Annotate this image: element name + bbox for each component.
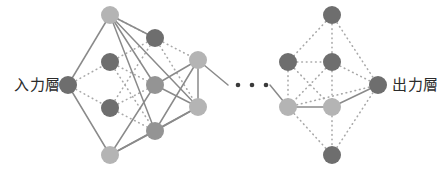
diagram-canvas: 入力層 出力層 bbox=[0, 0, 442, 172]
edge-dotted-r3-r5 bbox=[288, 107, 332, 155]
right-layer2-node-2[interactable] bbox=[323, 98, 341, 116]
right-layer1-node-top[interactable] bbox=[323, 6, 341, 24]
edge-solid-in-a1 bbox=[68, 15, 110, 85]
left-layer1-node-4[interactable] bbox=[101, 146, 119, 164]
left-layer2-node-1[interactable] bbox=[146, 29, 164, 47]
network-graph bbox=[0, 0, 442, 172]
left-layer2-node-3[interactable] bbox=[146, 122, 164, 140]
edge-dotted-r0-r1 bbox=[288, 15, 332, 62]
ellipsis-dot-3 bbox=[264, 83, 269, 88]
input-layer-label: 入力層 bbox=[14, 78, 61, 93]
right-layer1-node-1[interactable] bbox=[279, 53, 297, 71]
input-node[interactable] bbox=[59, 76, 77, 94]
edge-dotted-r0-out bbox=[332, 15, 378, 85]
left-layer3-node-1[interactable] bbox=[189, 51, 207, 69]
node-group bbox=[59, 6, 387, 164]
left-layer3-node-2[interactable] bbox=[189, 98, 207, 116]
dotted-edge-group bbox=[68, 15, 378, 155]
left-layer1-node-3[interactable] bbox=[101, 99, 119, 117]
left-layer1-node-1[interactable] bbox=[101, 6, 119, 24]
edge-solid-b3-c1 bbox=[155, 60, 198, 131]
ellipsis-dot-2 bbox=[250, 83, 255, 88]
right-layer1-node-2[interactable] bbox=[279, 98, 297, 116]
ellipsis-dot-1 bbox=[236, 83, 241, 88]
left-layer1-node-2[interactable] bbox=[101, 53, 119, 71]
edge-solid-in-a4 bbox=[68, 85, 110, 155]
output-node[interactable] bbox=[369, 76, 387, 94]
left-layer2-node-2[interactable] bbox=[146, 76, 164, 94]
output-layer-label: 出力層 bbox=[392, 78, 439, 93]
right-layer2-node-bot[interactable] bbox=[323, 146, 341, 164]
ellipsis-dot-group bbox=[236, 83, 269, 88]
gap-stub-edge-group bbox=[198, 60, 288, 107]
right-layer2-node-1[interactable] bbox=[323, 53, 341, 71]
